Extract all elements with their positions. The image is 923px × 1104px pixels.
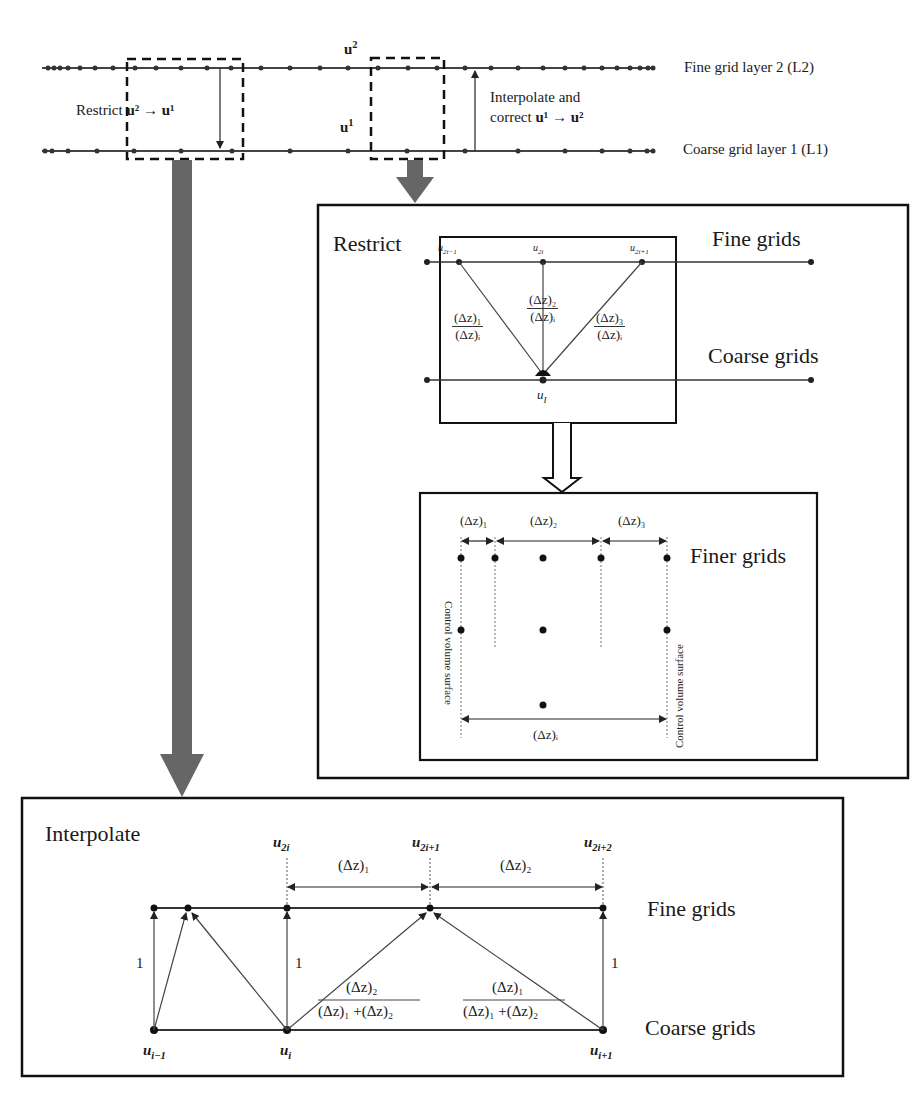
interpolate-selection-box <box>371 58 444 159</box>
finer-dz3: (Δz)₃ <box>618 514 645 527</box>
u2-label: u2 <box>344 40 358 57</box>
restrict-weight-left: (Δz)₁(Δz)ᵢ <box>452 311 483 341</box>
restrict-fine-grids-label: Fine grids <box>712 228 801 250</box>
finer-grids-box <box>420 493 817 760</box>
restrict-weight-right: (Δz)₃(Δz)ᵢ <box>594 311 625 341</box>
node-u2i1-interp: u2i+1 <box>412 835 440 854</box>
restrict-fine-line <box>424 259 814 265</box>
interpolate-title: Interpolate <box>45 823 140 845</box>
hollow-arrow-to-finer <box>544 423 580 492</box>
interpolate-overview-line2: correct u¹ → u² <box>490 110 584 125</box>
node-u2i: u2i <box>533 243 543 256</box>
interp-weight-right-num: (Δz)₁ <box>492 980 524 995</box>
interp-coarse-grids-label: Coarse grids <box>645 1017 756 1039</box>
interpolate-fine-line <box>151 905 607 912</box>
finer-dim-arrows <box>462 541 666 719</box>
interpolate-overview-line1: Interpolate and <box>490 90 580 105</box>
restrict-title: Restrict <box>333 233 401 255</box>
finer-dzi: (Δz)ᵢ <box>533 728 558 741</box>
interp-fine-grids-label: Fine grids <box>647 898 736 920</box>
weight-one-a: 1 <box>136 956 144 971</box>
restrict-coarse-line <box>424 377 814 384</box>
weight-one-c: 1 <box>611 956 619 971</box>
u1-label: u1 <box>340 118 354 135</box>
node-u2i-interp: u2i <box>273 835 290 854</box>
node-ui-plus1: ui+1 <box>590 1043 613 1062</box>
interp-weight-right-den: (Δz)₁ +(Δz)₂ <box>463 1004 538 1019</box>
interpolate-dotted-lines <box>287 858 603 906</box>
node-u2i2-interp: u2i+2 <box>584 835 612 854</box>
interpolate-coarse-line <box>150 1026 607 1034</box>
coarse-grid-layer-1-line <box>42 149 656 154</box>
finer-grids-label: Finer grids <box>690 545 786 567</box>
node-ui-minus1: ui−1 <box>143 1043 166 1062</box>
restrict-coarse-grids-label: Coarse grids <box>708 345 819 367</box>
weight-one-b: 1 <box>295 956 303 971</box>
restrict-arrowheads <box>535 370 551 376</box>
interp-dz2: (Δz)₂ <box>500 858 532 873</box>
fine-grid-layer-label: Fine grid layer 2 (L2) <box>684 60 814 75</box>
node-u2i-minus1: u2i−1 <box>438 243 457 256</box>
restrict-panel-frame <box>318 205 908 778</box>
node-u2i-plus1: u2i+1 <box>630 243 649 256</box>
finer-grid-points <box>458 555 671 709</box>
control-volume-surface-right: Control volume surface <box>673 644 685 748</box>
finer-dz1: (Δz)₁ <box>460 514 487 527</box>
interp-weight-left-num: (Δz)₂ <box>346 980 378 995</box>
finer-dotted-lines <box>461 537 667 738</box>
interp-dz1: (Δz)₁ <box>338 858 370 873</box>
restrict-weight-mid: (Δz)₂(Δz)ᵢ <box>527 293 558 323</box>
fine-grid-layer-2-line <box>42 66 656 71</box>
interp-weight-left-den: (Δz)₁ +(Δz)₂ <box>318 1004 393 1019</box>
node-ui: ui <box>280 1043 291 1062</box>
coarse-grid-layer-label: Coarse grid layer 1 (L1) <box>683 142 828 157</box>
control-volume-surface-left: Control volume surface <box>443 601 455 705</box>
restrict-overview-label: Restrict u² → u¹ <box>76 103 175 118</box>
gray-arrow-to-interpolate <box>160 160 204 797</box>
node-ui: uI <box>537 388 547 405</box>
finer-dz2: (Δz)₂ <box>530 514 557 527</box>
gray-arrow-to-restrict <box>396 160 434 203</box>
